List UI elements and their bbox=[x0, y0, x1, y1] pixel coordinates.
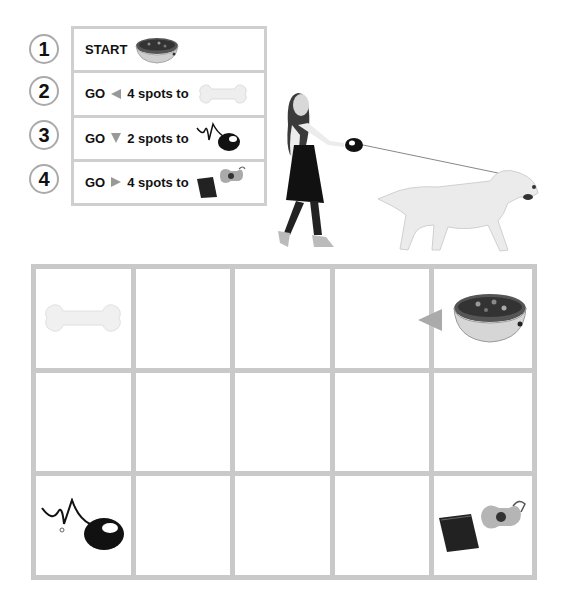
step-number-3: 3 bbox=[29, 120, 59, 150]
girl-walking-dog-illustration bbox=[268, 85, 558, 260]
bone-icon bbox=[39, 300, 127, 336]
grid-cell-r3-c4[interactable] bbox=[335, 476, 430, 575]
step-number-1: 1 bbox=[29, 34, 59, 64]
grid-cell-r2-c4[interactable] bbox=[335, 373, 430, 472]
step-2: GO 4 spots to bbox=[74, 73, 264, 114]
grid-cell-r1-c5[interactable] bbox=[434, 269, 532, 368]
step-verb: GO bbox=[85, 175, 105, 190]
leash-icon bbox=[195, 122, 241, 154]
grid-cell-r3-c1[interactable] bbox=[36, 476, 131, 575]
step-4: GO 4 spots to bbox=[74, 162, 264, 203]
step-verb: GO bbox=[85, 131, 105, 146]
grid-cell-r2-c2[interactable] bbox=[136, 373, 231, 472]
grid-cell-r1-c3[interactable] bbox=[235, 269, 330, 368]
grid-cell-r3-c2[interactable] bbox=[136, 476, 231, 575]
grid-cell-r1-c1[interactable] bbox=[36, 269, 131, 368]
step-count: 4 spots to bbox=[127, 86, 188, 101]
step-1: START bbox=[74, 29, 264, 70]
waste-bags-icon bbox=[195, 165, 247, 199]
grid-cell-r1-c2[interactable] bbox=[136, 269, 231, 368]
step-count: 4 spots to bbox=[127, 175, 188, 190]
food-bowl-icon bbox=[448, 288, 532, 348]
step-3: GO 2 spots to bbox=[74, 118, 264, 159]
grid-cell-r3-c3[interactable] bbox=[235, 476, 330, 575]
bone-icon bbox=[195, 82, 251, 106]
food-bowl-icon bbox=[133, 34, 181, 66]
step-number-4: 4 bbox=[29, 164, 59, 194]
waste-bags-icon bbox=[437, 498, 529, 554]
step-verb: START bbox=[85, 42, 127, 57]
leash-icon bbox=[38, 498, 128, 554]
instructions-panel: START GO 4 spots to GO 2 spots to GO 4 s… bbox=[71, 26, 267, 206]
grid-cell-r2-c3[interactable] bbox=[235, 373, 330, 472]
arrow-down-icon bbox=[111, 133, 121, 143]
step-verb: GO bbox=[85, 86, 105, 101]
grid-cell-r1-c4[interactable] bbox=[335, 269, 430, 368]
step-count: 2 spots to bbox=[127, 131, 188, 146]
grid-cell-r2-c1[interactable] bbox=[36, 373, 131, 472]
movement-grid bbox=[31, 264, 537, 580]
grid-cell-r3-c5[interactable] bbox=[434, 476, 532, 575]
arrow-left-icon bbox=[111, 89, 121, 99]
step-number-2: 2 bbox=[29, 76, 59, 106]
grid-cell-r2-c5[interactable] bbox=[434, 373, 532, 472]
arrow-left-icon bbox=[418, 309, 442, 331]
arrow-right-icon bbox=[111, 177, 121, 187]
